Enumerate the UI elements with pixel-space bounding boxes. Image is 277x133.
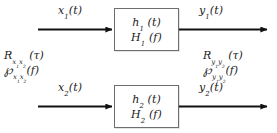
- input-label-channel-2: x2(t): [58, 81, 82, 94]
- block-diagram-figure: x1(t) h1 (t) H1 (f) y1(t) Rx1x2 (τ) ℘x1x…: [0, 0, 277, 133]
- transfer-function-label-channel-2: H2 (f): [131, 107, 162, 122]
- impulse-response-label-channel-2: h2 (t): [132, 92, 161, 107]
- system-block-channel-1: h1 (t) H1 (f): [114, 8, 179, 51]
- transfer-function-label-channel-1: H1 (f): [131, 30, 162, 45]
- output-label-channel-2: y2(t): [199, 81, 223, 94]
- system-block-channel-2: h2 (t) H2 (f): [114, 85, 179, 128]
- output-label-channel-1: y1(t): [199, 4, 223, 17]
- input-label-channel-1: x1(t): [58, 4, 82, 17]
- output-cross-spectral-density-label: ℘y1y2(f): [203, 63, 238, 79]
- input-cross-spectral-density-label: ℘x1x2(f): [4, 63, 39, 79]
- impulse-response-label-channel-1: h1 (t): [132, 15, 161, 30]
